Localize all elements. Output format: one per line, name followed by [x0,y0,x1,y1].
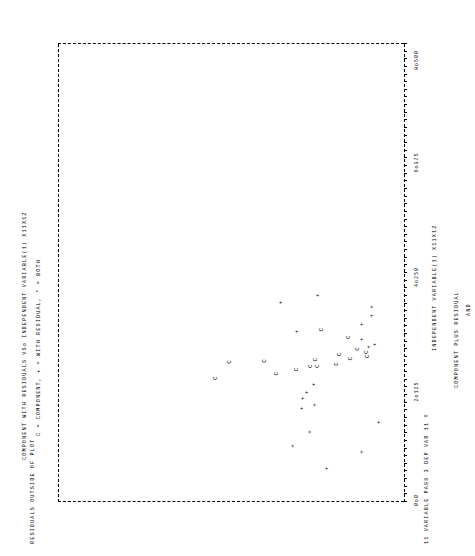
x-tick-label: 2o125 [414,381,420,401]
x-tick-label: 0o0 [414,494,420,506]
data-point: C [365,355,371,359]
x-tick [404,356,407,357]
data-point: C [294,368,300,372]
data-point: C [364,350,370,354]
chart-subtitle: C = COMPONENT, + = WITH RESIDUAL, * = BO… [36,259,42,436]
data-point: C [348,357,354,361]
x-tick [404,295,407,296]
x-tick [404,440,407,441]
x-tick [404,432,407,433]
x-tick [404,89,407,90]
x-tick [404,142,407,143]
chart-sheet: COMPONENT WITH RESIDUALS VSo INDEPENDENT… [0,0,475,556]
x-tick [404,81,407,82]
data-point: C [313,358,319,362]
data-point: C [355,347,361,351]
x-tick [404,379,407,380]
x-tick [404,387,407,388]
x-tick [404,325,407,326]
x-tick [404,287,407,288]
x-tick [404,51,407,52]
data-point: + [290,444,296,448]
x-tick [404,119,407,120]
x-tick-label: 4o250 [414,267,420,287]
data-points: ++++++++++CCCCCCCCCCCCCC+++C+C+++++ [58,44,404,502]
x-tick [404,196,407,197]
x-tick [404,150,407,151]
x-tick [404,341,407,342]
x-tick [404,463,407,464]
data-point: + [299,406,305,410]
x-tick [404,448,407,449]
data-point: + [300,397,306,401]
x-tick [404,257,407,258]
x-tick [404,280,407,281]
x-tick [404,158,407,159]
data-point: + [294,330,300,334]
x-tick [404,58,407,59]
x-tick [404,249,407,250]
x-tick [404,333,407,334]
x-tick [404,409,407,410]
data-point: + [369,305,375,309]
x-tick [404,234,407,235]
data-point: C [334,362,340,366]
x-tick [404,486,407,487]
x-tick [404,425,407,426]
x-tick [404,470,407,471]
x-tick [404,318,407,319]
data-point: + [315,293,321,297]
x-tick [404,364,407,365]
x-tick [404,394,407,395]
data-point: + [311,383,317,387]
y-axis-title-line2: AND [466,303,472,316]
x-tick [404,272,407,273]
data-point: C [337,353,343,357]
x-tick [404,303,407,304]
data-point: + [369,314,375,318]
x-tick [404,348,407,349]
x-tick [404,501,407,502]
x-tick [404,455,407,456]
x-tick [404,219,407,220]
data-point: + [304,390,310,394]
data-point: C [227,360,233,364]
x-tick [404,402,407,403]
x-tick-label: 8o500 [414,50,420,70]
data-point: C [262,359,268,363]
x-tick [404,112,407,113]
data-point: + [359,450,365,454]
x-tick-label: 6o375 [414,152,420,172]
x-tick [404,173,407,174]
x-tick [404,66,407,67]
x-tick [404,226,407,227]
plot-area: ++++++++++CCCCCCCCCCCCCC+++C+C+++++ [58,44,404,502]
x-axis-ticks [404,44,414,502]
chart-title: COMPONENT WITH RESIDUALS VSo INDEPENDENT… [22,211,28,460]
data-point: + [307,430,313,434]
x-tick [404,211,407,212]
data-point: + [324,467,330,471]
x-tick [404,180,407,181]
x-tick [404,264,407,265]
x-tick [404,135,407,136]
x-tick [404,74,407,75]
data-point: + [359,337,365,341]
data-point: + [372,343,378,347]
data-point: + [312,403,318,407]
data-point: + [359,322,365,326]
x-tick [404,188,407,189]
data-point: C [319,328,325,332]
data-point: + [278,301,284,305]
x-tick [404,241,407,242]
x-tick [404,104,407,105]
x-tick [404,96,407,97]
x-tick [404,493,407,494]
x-tick [404,165,407,166]
data-point: C [274,372,280,376]
data-point: C [213,376,219,380]
x-tick [404,417,407,418]
y-axis-title-line1: COMPONENT PLUS RESIDUAL [454,291,460,388]
x-tick [404,371,407,372]
data-point: C [346,335,352,339]
